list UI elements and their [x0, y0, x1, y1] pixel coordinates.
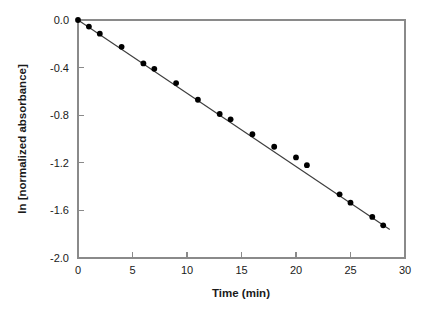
y-tick-label: -0.8	[50, 109, 69, 121]
data-point	[75, 17, 81, 23]
frame-rect	[78, 20, 405, 258]
y-axis-ticks	[78, 20, 84, 258]
x-tick-label: 5	[129, 264, 135, 276]
regression-line	[78, 20, 390, 229]
y-tick-label: -1.6	[50, 204, 69, 216]
plot-frame	[78, 20, 405, 258]
y-tick-label: -0.4	[50, 62, 69, 74]
x-tick-label: 20	[290, 264, 302, 276]
data-point	[217, 111, 223, 117]
y-tick-label: 0.0	[54, 14, 69, 26]
data-point	[380, 222, 386, 228]
x-tick-label: 15	[235, 264, 247, 276]
data-point	[195, 97, 201, 103]
y-axis-title: ln [normalized absorbance]	[16, 64, 28, 214]
data-point	[304, 162, 310, 168]
fit-line-path	[78, 20, 390, 229]
data-point	[151, 66, 157, 72]
y-tick-label: -1.2	[50, 157, 69, 169]
data-point	[228, 116, 234, 122]
x-tick-label: 10	[181, 264, 193, 276]
x-tick-label: 30	[399, 264, 411, 276]
data-point	[271, 144, 277, 150]
y-tick-label: -2.0	[50, 252, 69, 264]
data-point	[337, 191, 343, 197]
data-point	[369, 214, 375, 220]
data-point	[293, 155, 299, 161]
data-point	[250, 131, 256, 137]
y-axis-tick-labels: 0.0-0.4-0.8-1.2-1.6-2.0	[50, 14, 69, 264]
data-point	[141, 61, 147, 67]
x-tick-label: 0	[75, 264, 81, 276]
figure-container: 051015202530 0.0-0.4-0.8-1.2-1.6-2.0 Tim…	[0, 0, 432, 316]
data-point	[119, 44, 125, 50]
data-point	[348, 200, 354, 206]
data-point	[86, 24, 92, 30]
kinetics-scatter-plot: 051015202530 0.0-0.4-0.8-1.2-1.6-2.0 Tim…	[0, 0, 432, 316]
x-axis-title: Time (min)	[212, 287, 270, 299]
x-axis-tick-labels: 051015202530	[75, 264, 411, 276]
data-point	[173, 80, 179, 86]
x-tick-label: 25	[344, 264, 356, 276]
x-axis-ticks	[78, 252, 405, 258]
data-point	[97, 31, 103, 37]
